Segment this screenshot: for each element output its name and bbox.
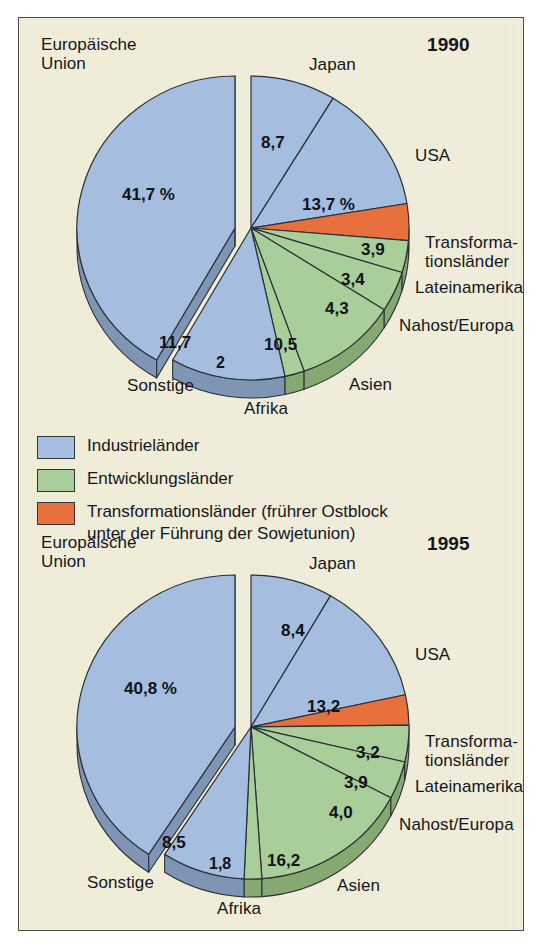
chart-1990-label-sonstige: Sonstige [127,376,194,395]
legend-swatch-developing [37,469,75,492]
pie-chart-1990: 1990 Europäische Union Japan USA Transfo… [19,18,524,475]
chart-1995-value-transformation: 3,2 [356,743,380,763]
chart-1995-value-nahost: 4,0 [329,803,353,823]
figure-panel: 1990 Europäische Union Japan USA Transfo… [18,17,524,931]
chart-1990-value-eu: 41,7 % [122,185,175,205]
chart-1995-label-afrika: Afrika [217,899,261,918]
chart-1990-label-usa: USA [415,146,450,165]
chart-1990-label-japan: Japan [309,55,356,74]
chart-1995-label-lateinamerika: Lateinamerika [415,777,523,796]
chart-1990-label-asien: Asien [349,375,392,394]
chart-1995-value-eu: 40,8 % [124,679,177,699]
chart-1995-value-lateinamerika: 3,9 [344,773,368,793]
chart-1995-value-afrika: 1,8 [209,855,231,873]
chart-1995-value-sonstige: 8,5 [162,833,186,853]
chart-1995-value-asien: 16,2 [267,851,300,871]
chart-1995-value-japan: 8,4 [281,621,305,641]
legend-swatch-industrial [37,436,75,459]
chart-1990-value-afrika: 2 [216,354,225,372]
chart-1995-label-usa: USA [415,645,450,664]
chart-1990-year: 1990 [427,34,470,55]
chart-1995-year: 1995 [427,533,470,554]
chart-1995-label-eu: Europäische Union [41,533,137,571]
chart-1990-value-lateinamerika: 3,4 [341,270,365,290]
legend-label-developing: Entwicklungsländer [87,468,233,490]
chart-1990-value-sonstige: 11,7 [159,333,191,353]
chart-1990-value-japan: 8,7 [261,133,285,153]
chart-1990-label-eu: Europäische Union [41,35,137,73]
pie-chart-1990-graphic [19,18,524,438]
chart-1990-label-nahost: Nahost/Europa [399,316,514,335]
chart-1990-label-afrika: Afrika [244,399,288,418]
pie-chart-1995: 1995 Europäische Union Japan USA Transfo… [19,521,524,931]
chart-1995-label-transformation: Transforma- tionsländer [425,732,518,770]
chart-1995-value-usa: 13,2 [307,697,340,717]
chart-1995-label-nahost: Nahost/Europa [399,815,514,834]
chart-1990-value-usa: 13,7 % [302,195,355,215]
chart-1995-label-japan: Japan [309,554,356,573]
chart-1990-value-transformation: 3,9 [361,240,385,260]
chart-1990-label-lateinamerika: Lateinamerika [415,278,523,297]
legend-label-industrial: Industrieländer [87,435,199,457]
chart-1995-label-sonstige: Sonstige [87,873,154,892]
chart-1990-value-nahost: 4,3 [325,299,349,319]
chart-1990-value-asien: 10,5 [264,335,297,355]
chart-1995-label-asien: Asien [337,876,380,895]
chart-1990-label-transformation: Transforma- tionsländer [425,233,518,271]
